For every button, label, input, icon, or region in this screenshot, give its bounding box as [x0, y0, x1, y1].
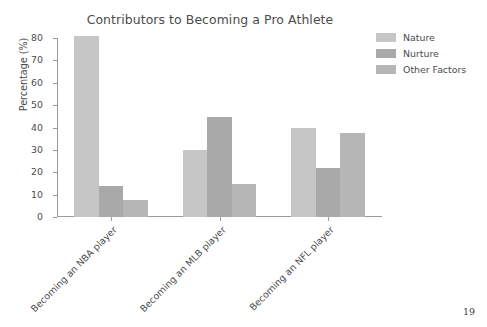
- x-axis-label: Becoming an NFL player: [243, 224, 336, 317]
- plot-area: [57, 38, 382, 217]
- x-tick-mark: [111, 217, 112, 221]
- y-tick-mark: [53, 128, 57, 129]
- chart-title: Contributors to Becoming a Pro Athlete: [60, 12, 360, 27]
- bar-nurture-0: [99, 186, 124, 217]
- y-tick-mark: [53, 83, 57, 84]
- slide-canvas: Contributors to Becoming a Pro Athlete P…: [0, 0, 487, 327]
- bar-nature-2: [291, 128, 316, 217]
- bar-nature-0: [74, 36, 99, 217]
- bar-nurture-1: [207, 117, 232, 217]
- bar-nurture-2: [316, 168, 341, 217]
- legend-item: Nature: [376, 30, 481, 45]
- y-tick-label: 30: [31, 144, 43, 155]
- y-tick-mark: [53, 172, 57, 173]
- legend-item: Other Factors: [376, 62, 481, 77]
- legend-label: Other Factors: [403, 64, 466, 75]
- y-tick-mark: [53, 105, 57, 106]
- y-tick-label: 40: [31, 122, 43, 133]
- y-tick-label: 50: [31, 99, 43, 110]
- legend-swatch-icon: [376, 33, 396, 42]
- y-tick-label: 20: [31, 166, 43, 177]
- legend-label: Nature: [403, 32, 435, 43]
- page-number: 19: [463, 306, 475, 317]
- y-tick-mark: [53, 150, 57, 151]
- y-tick-label: 0: [37, 211, 43, 222]
- legend-label: Nurture: [403, 48, 439, 59]
- x-axis-label: Becoming an NBA player: [26, 224, 119, 317]
- chart-legend: NatureNurtureOther Factors: [376, 30, 481, 78]
- y-tick-label: 80: [31, 32, 43, 43]
- y-tick-label: 70: [31, 54, 43, 65]
- y-tick-label: 60: [31, 77, 43, 88]
- y-tick-label: 10: [31, 189, 43, 200]
- x-axis-label: Becoming an MLB player: [135, 224, 228, 317]
- bar-other-factors-0: [123, 200, 148, 217]
- legend-swatch-icon: [376, 65, 396, 74]
- y-tick-mark: [53, 38, 57, 39]
- y-tick-mark: [53, 217, 57, 218]
- x-tick-mark: [328, 217, 329, 221]
- legend-item: Nurture: [376, 46, 481, 61]
- bar-other-factors-2: [340, 133, 365, 217]
- bar-other-factors-1: [232, 184, 257, 217]
- y-axis-label: Percentage (%): [18, 0, 29, 155]
- bar-nature-1: [183, 150, 208, 217]
- y-tick-mark: [53, 195, 57, 196]
- legend-swatch-icon: [376, 49, 396, 58]
- x-tick-mark: [220, 217, 221, 221]
- y-tick-mark: [53, 60, 57, 61]
